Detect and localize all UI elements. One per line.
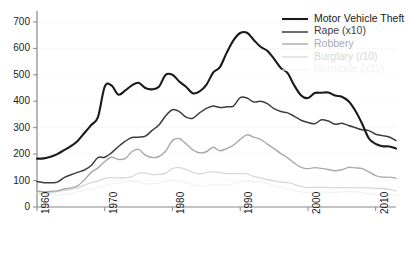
legend-label: Burglary (/10) [314,51,378,62]
legend-label: Robbery [314,38,354,49]
x-axis-tick-label: 1970 [109,192,119,214]
y-axis-tick-label: 700 [0,17,30,27]
y-axis-tick-label: 300 [0,123,30,133]
y-axis-tick-label: 500 [0,70,30,80]
legend-swatch [282,60,308,78]
y-axis-tick-label: 0 [0,202,30,212]
legend-item[interactable]: Homicide (x10) [282,62,404,75]
x-axis-tick-label: 1980 [176,192,186,214]
legend-label: Rape (x10) [314,25,366,36]
y-axis-tick-label: 100 [0,176,30,186]
legend-label: Motor Vehicle Theft [314,13,404,24]
x-axis-tick-label: 2010 [380,192,390,214]
x-axis-tick-label: 1960 [41,192,51,214]
y-axis-tick-label: 400 [0,96,30,106]
x-axis-tickmarks [37,207,376,211]
x-axis-tick-label: 2000 [312,192,322,214]
x-axis-tick-label: 1990 [244,192,254,214]
y-axis-tick-label: 200 [0,149,30,159]
line-chart: 0100200300400500600700 19601970198019902… [0,0,408,253]
chart-legend: Motor Vehicle TheftRape (x10)RobberyBurg… [282,12,404,75]
y-axis-tick-label: 600 [0,43,30,53]
legend-label: Homicide (x10) [314,63,385,74]
